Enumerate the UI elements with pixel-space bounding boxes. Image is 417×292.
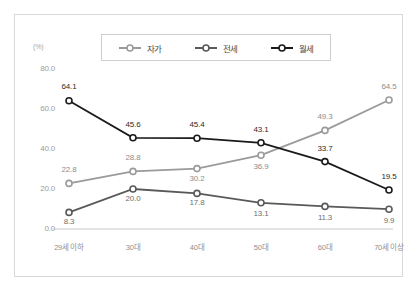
chart-container: (%) 0.020.040.060.080.0 29세 이하30대40대50대6…: [14, 14, 403, 277]
data-label-jeonse: 20.0: [126, 194, 141, 203]
data-label-jeonse: 9.9: [384, 216, 395, 225]
data-point-jaga: [258, 152, 264, 158]
data-label-jaga: 49.3: [318, 112, 333, 121]
data-point-jeonse: [386, 206, 392, 212]
data-point-wolse: [66, 98, 72, 104]
legend-entry-jaga[interactable]: 자가: [118, 42, 162, 54]
data-label-jaga: 36.9: [254, 162, 269, 171]
chart-legend: 자가전세월세: [101, 34, 331, 61]
data-point-jaga: [194, 166, 200, 172]
data-point-jeonse: [258, 200, 264, 206]
data-point-wolse: [130, 135, 136, 141]
series-line-jaga: [69, 100, 389, 183]
data-label-jeonse: 13.1: [254, 209, 269, 218]
data-point-jaga: [66, 180, 72, 186]
data-point-jeonse: [322, 203, 328, 209]
data-point-wolse: [386, 187, 392, 193]
data-point-jeonse: [194, 190, 200, 196]
data-label-jaga: 30.2: [190, 174, 205, 183]
data-point-wolse: [258, 140, 264, 146]
data-point-jaga: [130, 168, 136, 174]
data-point-jeonse: [130, 186, 136, 192]
data-label-jaga: 64.5: [382, 82, 397, 91]
data-point-wolse: [194, 135, 200, 141]
series-line-jeonse: [69, 189, 389, 212]
data-label-jeonse: 17.8: [190, 198, 205, 207]
data-point-jeonse: [66, 209, 72, 215]
legend-marker-jeonse: [194, 43, 218, 53]
data-point-wolse: [322, 159, 328, 165]
legend-label-wolse: 월세: [299, 42, 314, 54]
data-label-wolse: 33.7: [318, 144, 333, 153]
data-label-jaga: 22.8: [62, 165, 77, 174]
legend-entry-jeonse[interactable]: 전세: [194, 42, 238, 54]
data-point-jaga: [386, 97, 392, 103]
data-label-wolse: 19.5: [382, 172, 397, 181]
data-label-wolse: 45.6: [126, 120, 141, 129]
data-label-wolse: 45.4: [190, 120, 205, 129]
legend-label-jaga: 자가: [147, 42, 162, 54]
data-label-jaga: 28.8: [126, 153, 141, 162]
data-label-jeonse: 11.3: [318, 213, 332, 222]
legend-marker-jaga: [118, 43, 142, 53]
data-point-jaga: [322, 127, 328, 133]
legend-label-jeonse: 전세: [223, 42, 238, 54]
legend-marker-wolse: [270, 43, 294, 53]
data-label-wolse: 64.1: [62, 82, 77, 91]
series-line-wolse: [69, 101, 389, 190]
legend-entry-wolse[interactable]: 월세: [270, 42, 314, 54]
data-label-wolse: 43.1: [254, 125, 269, 134]
data-label-jeonse: 8.3: [64, 217, 75, 226]
